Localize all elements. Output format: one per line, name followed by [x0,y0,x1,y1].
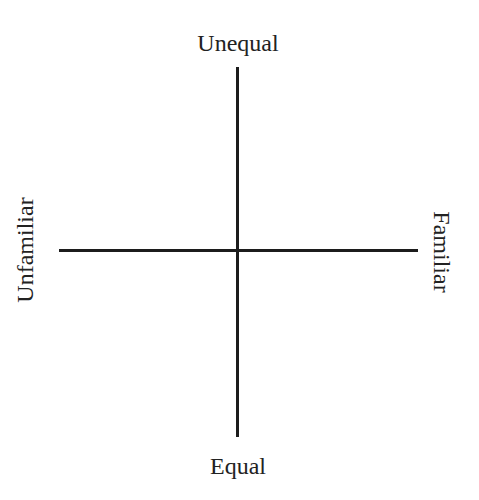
quadrant-diagram: Unequal Equal Unfamiliar Familiar [0,0,479,500]
axis-label-top: Unequal [197,31,278,55]
axis-label-left: Unfamiliar [13,197,37,302]
axis-label-bottom: Equal [210,454,266,478]
axis-label-right: Familiar [430,211,454,292]
vertical-axis-line [236,67,239,437]
horizontal-axis-line [59,249,418,252]
